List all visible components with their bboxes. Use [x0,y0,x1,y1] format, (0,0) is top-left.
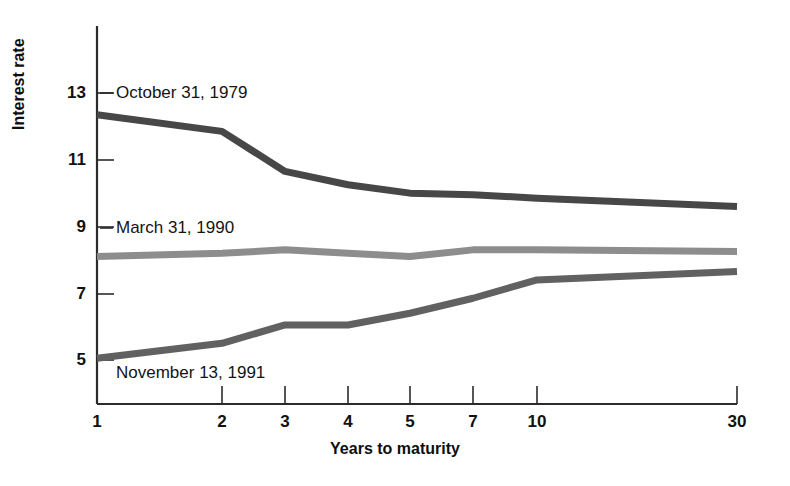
y-tick-label: 5 [48,350,86,370]
x-tick-label: 7 [468,412,477,432]
series-annotation-label: October 31, 1979 [116,83,247,103]
x-tick-label: 30 [728,412,747,432]
x-tick-label: 10 [528,412,547,432]
series-line-0 [97,115,737,207]
chart-plot-area [0,0,790,486]
y-tick-label: 13 [48,83,86,103]
y-tick-label: 9 [48,217,86,237]
series-line-2 [97,272,737,359]
series-annotation-label: March 31, 1990 [116,218,234,238]
x-tick-label: 4 [343,412,352,432]
x-tick-label: 2 [217,412,226,432]
y-tick-label: 11 [48,150,86,170]
x-tick-label: 3 [280,412,289,432]
x-axis-title: Years to maturity [0,440,790,458]
y-axis-title: Interest rate [10,0,28,130]
y-tick-marks [97,93,114,360]
interest-rate-yield-curve-chart: 1311975 1234571030 October 31, 1979March… [0,0,790,486]
x-tick-label: 1 [92,412,101,432]
x-tick-label: 5 [405,412,414,432]
series-line-1 [97,250,737,257]
y-tick-label: 7 [48,284,86,304]
series-annotation-label: November 13, 1991 [116,363,265,383]
x-tick-marks [97,386,737,404]
